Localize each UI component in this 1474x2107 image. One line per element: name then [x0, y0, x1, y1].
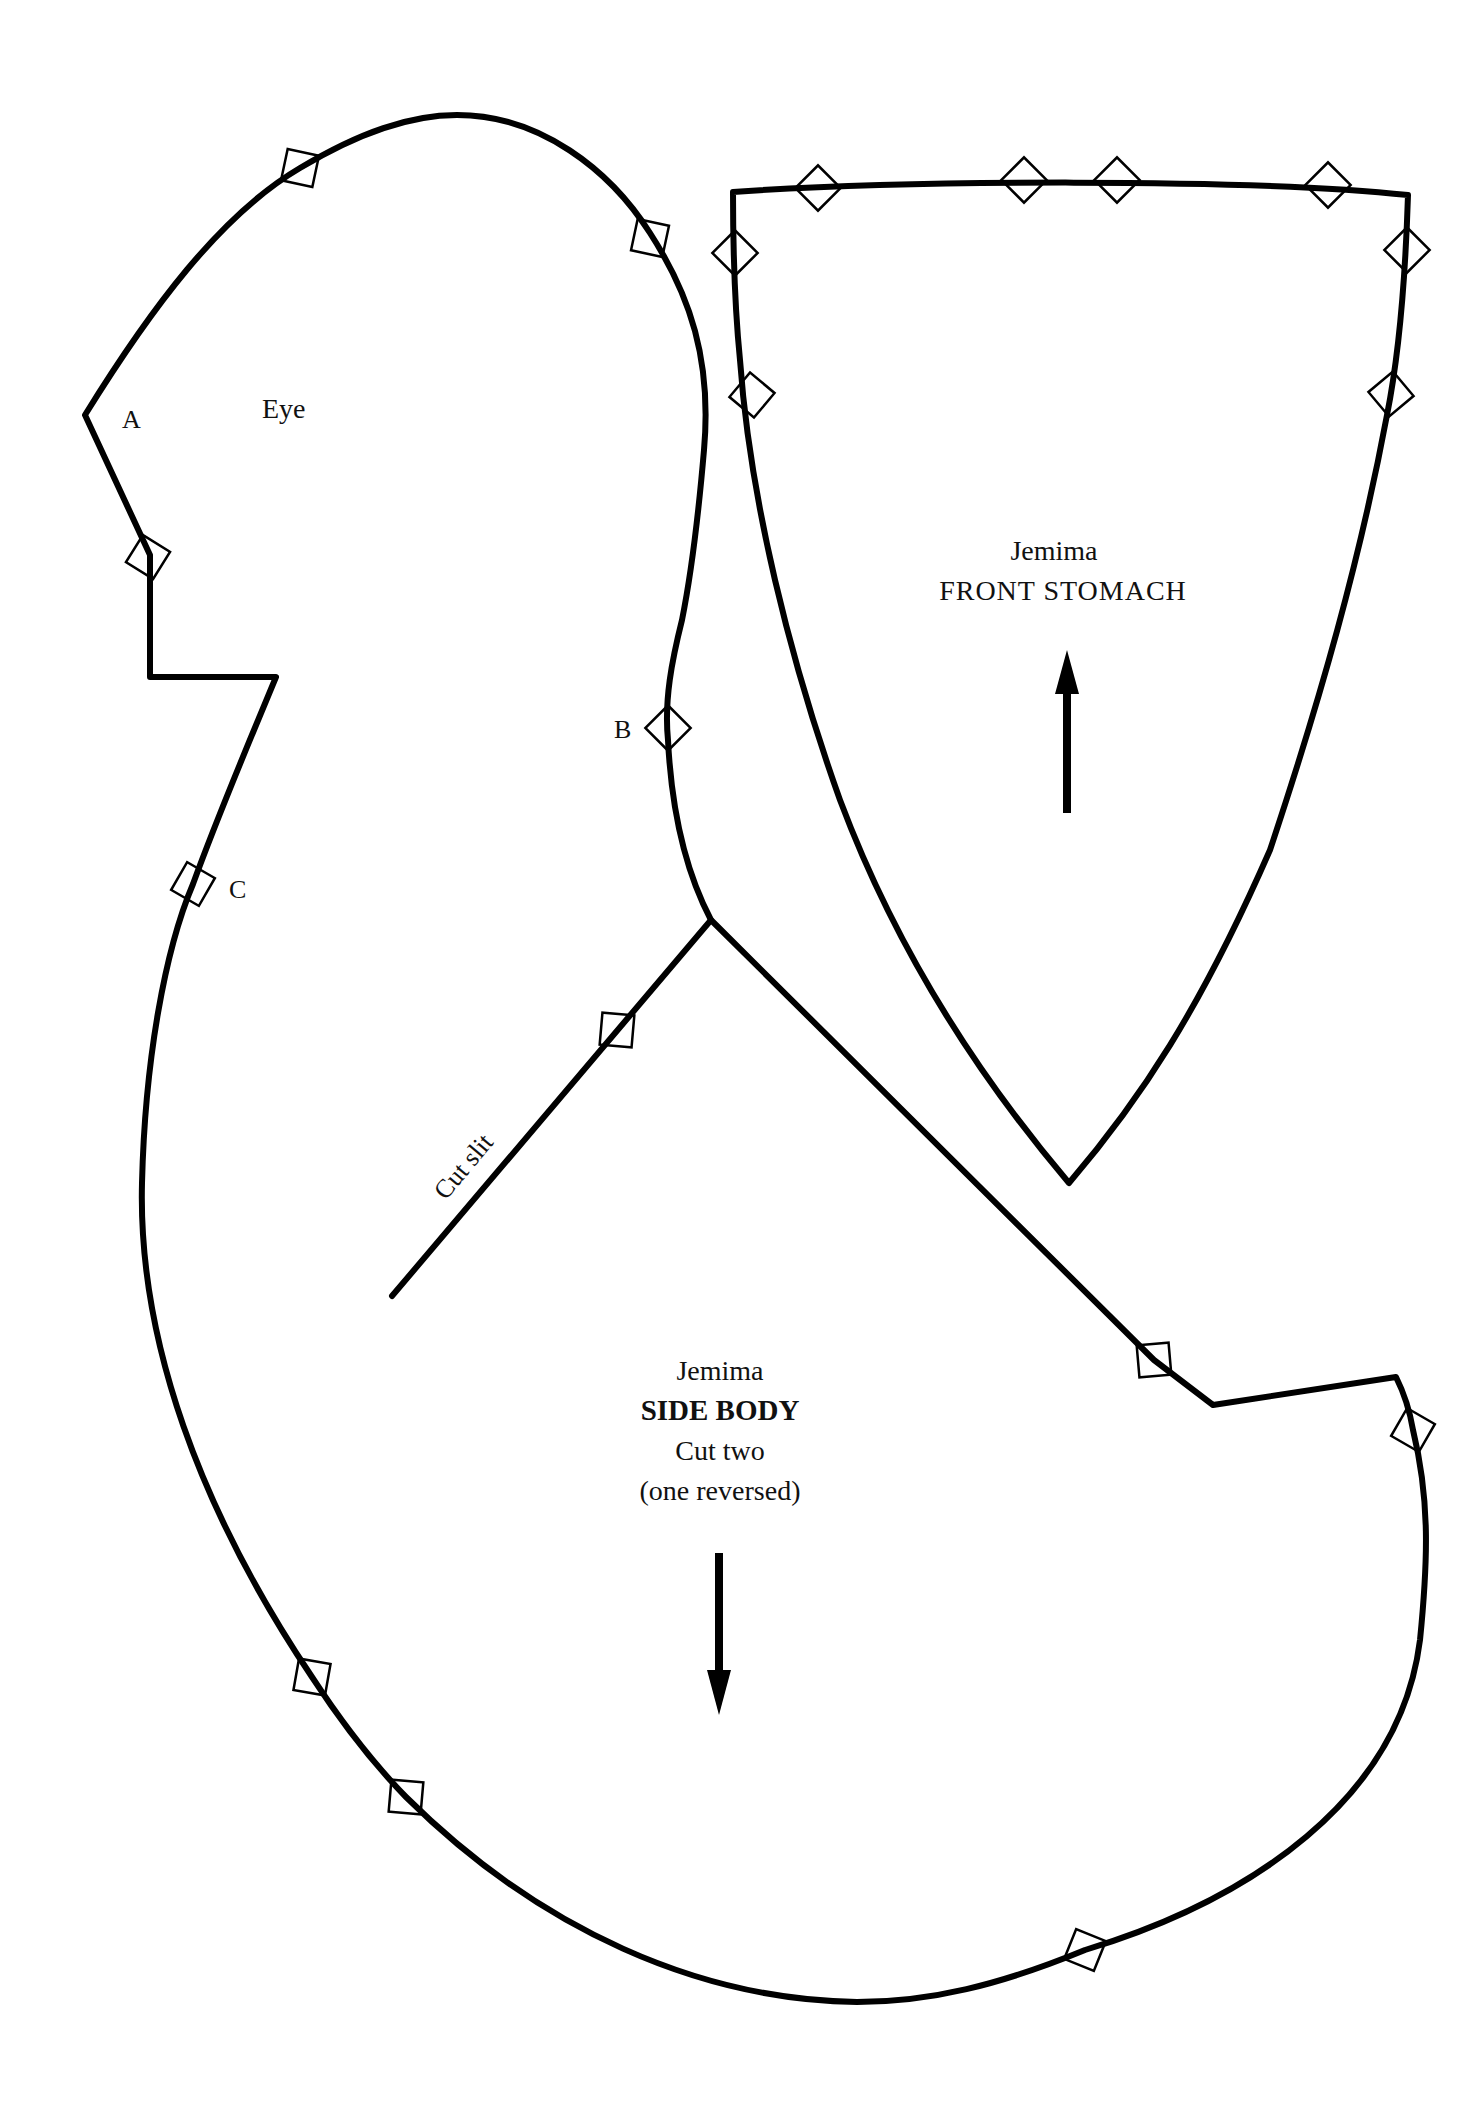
- cut-slit-label: Cut slit: [428, 1128, 499, 1205]
- point-label-b: B: [614, 715, 631, 744]
- side-body-note: (one reversed): [640, 1475, 801, 1506]
- side-body-name: Jemima: [676, 1355, 764, 1386]
- side-body-grain-arrow-icon: [707, 1553, 731, 1715]
- point-label-c: C: [229, 875, 246, 904]
- cut-slit-line: [392, 920, 711, 1296]
- front-stomach-notches: [712, 157, 1429, 417]
- front-stomach-grain-arrow-icon: [1055, 650, 1079, 813]
- side-body-title: SIDE BODY: [641, 1394, 800, 1426]
- point-label-a: A: [122, 405, 141, 434]
- pattern-sheet: A Eye B C Cut slit Jemima FRONT STOMACH …: [0, 0, 1474, 2107]
- eye-label: Eye: [262, 393, 306, 424]
- side-body-instruction: Cut two: [675, 1435, 764, 1466]
- notch-marker-icon: [729, 372, 774, 417]
- front-stomach-title: FRONT STOMACH: [939, 575, 1187, 606]
- front-stomach-name: Jemima: [1010, 535, 1098, 566]
